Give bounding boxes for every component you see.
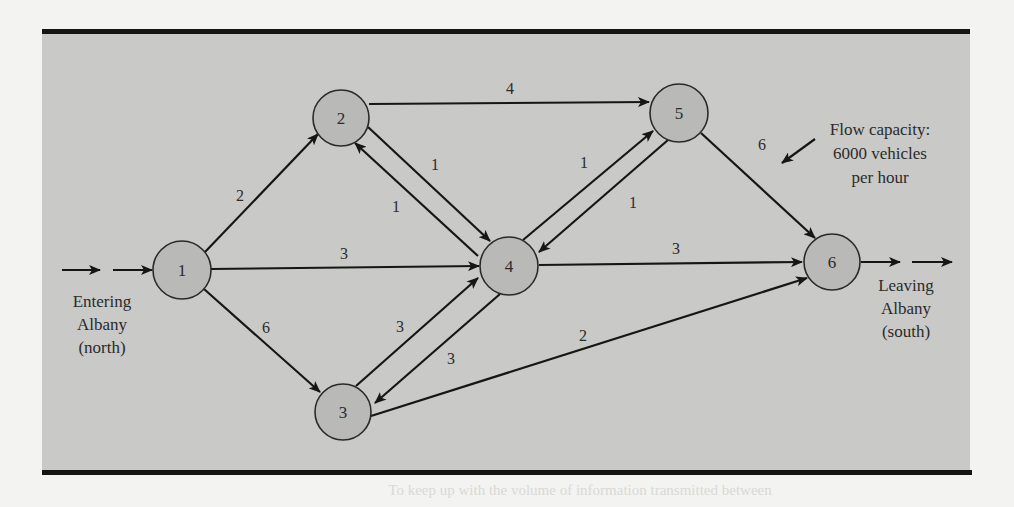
edge-label-3-6: 2 xyxy=(579,327,587,344)
node-5-label: 5 xyxy=(675,104,684,123)
svg-text:Albany: Albany xyxy=(77,315,128,334)
svg-text:Entering: Entering xyxy=(73,292,132,311)
svg-text:(north): (north) xyxy=(78,338,125,357)
node-1-label: 1 xyxy=(178,261,187,280)
node-2: 2 xyxy=(313,90,369,146)
svg-text:Flow capacity:: Flow capacity: xyxy=(830,120,931,139)
node-2-label: 2 xyxy=(337,109,346,128)
edge-label-4-6: 3 xyxy=(672,240,680,257)
exit-label: Leaving Albany (south) xyxy=(878,276,934,341)
node-6-label: 6 xyxy=(828,253,837,272)
edge-label-4-2: 1 xyxy=(392,198,400,215)
node-6: 6 xyxy=(804,234,860,290)
edge-label-4-5: 1 xyxy=(580,154,588,171)
edge-label-2-5: 4 xyxy=(506,80,514,97)
edge-label-3-4: 3 xyxy=(396,318,404,335)
edge-label-5-4: 1 xyxy=(629,194,637,211)
svg-text:6000 vehicles: 6000 vehicles xyxy=(833,144,927,163)
node-5: 5 xyxy=(650,84,708,142)
edge-label-1-2: 2 xyxy=(236,187,244,204)
edge-label-4-3: 3 xyxy=(447,350,455,367)
svg-text:per hour: per hour xyxy=(851,168,908,187)
node-1: 1 xyxy=(153,241,211,299)
bottom-rule xyxy=(42,470,972,475)
entry-label: Entering Albany (north) xyxy=(73,292,132,357)
svg-text:Leaving: Leaving xyxy=(878,276,934,295)
edge-label-1-3: 6 xyxy=(262,319,270,336)
top-rule xyxy=(42,29,970,34)
flow-network-diagram: To keep up with the volume of informatio… xyxy=(0,0,1014,507)
edge-label-2-4: 1 xyxy=(431,156,439,173)
node-4: 4 xyxy=(480,237,538,295)
bleed-through-text: To keep up with the volume of informatio… xyxy=(388,482,772,498)
node-3-label: 3 xyxy=(339,403,348,422)
edge-label-1-4: 3 xyxy=(340,245,348,262)
edge-label-5-6: 6 xyxy=(758,136,766,153)
node-4-label: 4 xyxy=(505,257,514,276)
svg-text:Albany: Albany xyxy=(881,299,932,318)
svg-text:(south): (south) xyxy=(882,322,930,341)
node-3: 3 xyxy=(315,384,371,440)
